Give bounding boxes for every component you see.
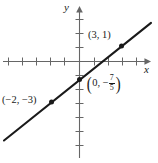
x-axis-label: x	[144, 64, 149, 75]
point-label-3-1: (3, 1)	[88, 30, 111, 41]
point-label-y-intercept: (0, −75)	[86, 74, 121, 93]
fraction-numerator: 7	[109, 74, 115, 82]
fraction-denominator: 5	[109, 83, 115, 92]
fraction-seven-fifths: 75	[109, 74, 115, 92]
data-point-3-1	[119, 44, 124, 49]
data-point-neg2-neg3	[49, 100, 54, 105]
y-intercept-expression: (0, −75)	[86, 74, 121, 93]
coordinate-plane	[0, 0, 158, 163]
point-label-neg2-neg3: (−2, −3)	[2, 95, 37, 106]
open-paren: (	[87, 74, 92, 93]
graph-figure: y x (3, 1) (−2, −3) (0, −75)	[0, 0, 158, 163]
data-point-y-intercept	[77, 77, 82, 82]
close-paren: )	[115, 74, 120, 93]
y-axis-label: y	[64, 2, 69, 13]
intercept-lead-text: 0, −	[92, 78, 108, 89]
plotted-line	[4, 23, 151, 141]
